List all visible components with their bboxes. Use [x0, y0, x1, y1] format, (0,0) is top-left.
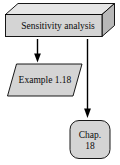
cuboid-front-face — [6, 15, 103, 37]
example-node[interactable] — [8, 64, 83, 96]
arrow-head-process-chapter — [84, 109, 91, 119]
flowchart-canvas — [0, 0, 120, 165]
chapter-node[interactable] — [70, 121, 110, 159]
flowchart-diagram: Sensitivity analysis Example 1.18 Chap. … — [0, 0, 120, 165]
rounded-rect-shape — [70, 121, 110, 159]
arrow-process-to-chapter — [84, 39, 91, 118]
arrow-process-to-example — [34, 39, 41, 63]
process-node-sensitivity-analysis[interactable] — [6, 4, 115, 37]
cuboid-top-face — [6, 4, 115, 15]
parallelogram-shape — [8, 64, 83, 96]
arrow-head-process-example — [34, 54, 41, 63]
